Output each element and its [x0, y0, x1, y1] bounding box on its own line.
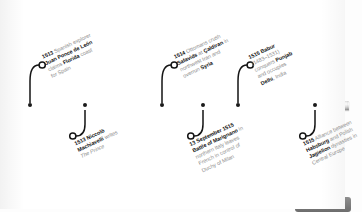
- timeline-entry-ottomans-caldiran: 1514 Ottomans crushSafavids at Çaldiran …: [173, 31, 236, 80]
- timeline-node-dot: [236, 103, 240, 107]
- timeline-node-dot: [313, 103, 317, 107]
- timeline-node-dot: [83, 103, 87, 107]
- timeline-node-dot: [201, 103, 205, 107]
- timeline-entry-ponce-de-leon: 1513 Spanish explorerJuan Ponce de Leónc…: [41, 32, 101, 80]
- timeline-node-dot: [160, 103, 164, 107]
- page-number-tab: 156: [295, 197, 351, 212]
- timeline-node-dot: [28, 103, 32, 107]
